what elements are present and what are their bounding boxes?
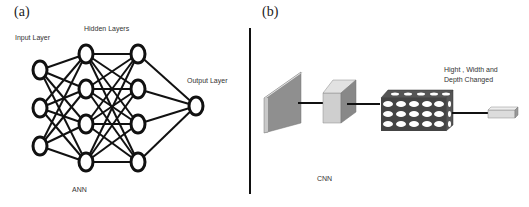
ann-title: ANN	[72, 186, 87, 193]
cnn-title: CNN	[317, 175, 332, 182]
panel-label-b: (b)	[262, 4, 278, 20]
input-layer-label: Input Layer	[15, 34, 50, 41]
hidden2-node	[131, 80, 145, 98]
input-node	[33, 99, 47, 117]
hidden2-node	[131, 45, 145, 63]
output-node	[189, 97, 203, 115]
cnn-pooled-block	[381, 90, 453, 131]
cnn-annotation-line2: Depth Changed	[444, 76, 493, 83]
hidden1-node	[79, 115, 93, 133]
hidden1-node	[79, 153, 93, 171]
hidden2-node	[131, 153, 145, 171]
ann-edges	[40, 54, 196, 162]
panel-label-a: (a)	[14, 4, 30, 20]
cnn-output-vector	[488, 107, 518, 118]
input-node	[33, 61, 47, 79]
cnn-input-slab	[264, 72, 303, 133]
output-layer-label: Output Layer	[187, 77, 227, 84]
cnn-feature-cube	[323, 80, 356, 123]
input-node	[33, 137, 47, 155]
hidden2-node	[131, 115, 145, 133]
hidden1-node	[79, 45, 93, 63]
cnn-annotation-line1: Hight , Width and	[444, 66, 498, 73]
hidden-layers-label: Hidden Layers	[84, 25, 129, 32]
hidden1-node	[79, 80, 93, 98]
diagram-canvas	[0, 0, 529, 207]
